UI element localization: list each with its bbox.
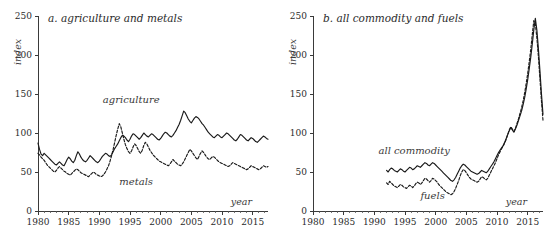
- x-tick-label: 1990: [88, 217, 111, 227]
- y-tick-label: 250: [15, 11, 32, 21]
- x-tick-label: 1980: [27, 217, 50, 227]
- y-tick-label: 100: [290, 128, 307, 138]
- series-line-all-commodity: [387, 18, 543, 181]
- x-tick-label: 2010: [211, 217, 234, 227]
- y-tick-label: 150: [290, 89, 307, 99]
- x-tick-label: 1985: [332, 217, 355, 227]
- x-tick-label: 1990: [363, 217, 386, 227]
- y-tick-label: 150: [15, 89, 32, 99]
- x-tick-label: 1980: [302, 217, 325, 227]
- x-tick-label: 1995: [119, 217, 142, 227]
- series-label-fuels: fuels: [419, 190, 444, 201]
- series-line-metals: [38, 124, 268, 177]
- series-label-metals: metals: [119, 176, 153, 187]
- x-tick-label: 2015: [516, 217, 539, 227]
- y-tick-label: 50: [21, 167, 33, 177]
- y-tick-label: 0: [301, 206, 307, 216]
- y-tick-label: 250: [290, 11, 307, 21]
- y-tick-label: 0: [26, 206, 32, 216]
- x-tick-label: 2010: [486, 217, 509, 227]
- x-tick-label: 2005: [455, 217, 478, 227]
- chart-panel-all-commodity-fuels: 0501001502002501980198519901995200020052…: [275, 0, 550, 240]
- series-label-agriculture: agriculture: [103, 94, 160, 105]
- y-axis-title: index: [12, 38, 23, 65]
- x-axis-title: year: [505, 196, 529, 207]
- series-label-all-commodity: all commodity: [378, 145, 450, 156]
- x-tick-label: 2000: [149, 217, 172, 227]
- x-tick-label: 2000: [424, 217, 447, 227]
- x-tick-label: 1985: [57, 217, 80, 227]
- y-tick-label: 50: [296, 167, 308, 177]
- x-axis-title: year: [230, 196, 254, 207]
- x-tick-label: 2005: [180, 217, 203, 227]
- x-tick-label: 2015: [241, 217, 264, 227]
- series-line-agriculture: [38, 111, 268, 166]
- y-axis-title: index: [287, 38, 298, 65]
- panel-title: b. all commodity and fuels: [323, 12, 464, 24]
- series-line-fuels: [387, 21, 543, 195]
- x-tick-label: 1995: [394, 217, 417, 227]
- commodity-index-figure: 0501001502002501980198519901995200020052…: [0, 0, 550, 240]
- panel-title: a. agriculture and metals: [48, 12, 183, 24]
- chart-svg-a: 0501001502002501980198519901995200020052…: [0, 0, 275, 240]
- chart-panel-agriculture-metals: 0501001502002501980198519901995200020052…: [0, 0, 275, 240]
- chart-svg-b: 0501001502002501980198519901995200020052…: [275, 0, 550, 240]
- y-tick-label: 100: [15, 128, 32, 138]
